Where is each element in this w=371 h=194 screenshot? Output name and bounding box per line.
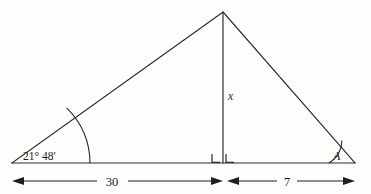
right-angle-label: A: [332, 149, 341, 163]
arrow-head-left-start: [12, 177, 24, 185]
right-side-line: [223, 12, 355, 163]
arrow-head-right-start: [227, 177, 239, 185]
right-angle-mark-left: [212, 154, 220, 162]
figure-container: 21° 48' A x 30 7: [0, 0, 371, 194]
dimension-label-right: 7: [284, 175, 290, 189]
dimension-label-left: 30: [106, 175, 119, 189]
arrow-head-left-end: [211, 177, 223, 185]
left-side-line: [12, 12, 223, 163]
triangle-diagram: 21° 48' A x 30 7: [0, 0, 371, 194]
right-angle-mark-right: [226, 154, 234, 162]
altitude-label: x: [227, 90, 234, 102]
arrow-head-right-end: [343, 177, 355, 185]
left-angle-label: 21° 48': [23, 150, 56, 162]
